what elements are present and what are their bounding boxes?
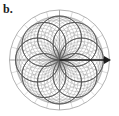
polar-plot-figure: b. [0,0,119,116]
polar-plot-canvas [0,0,119,116]
arrow-head [104,56,111,64]
